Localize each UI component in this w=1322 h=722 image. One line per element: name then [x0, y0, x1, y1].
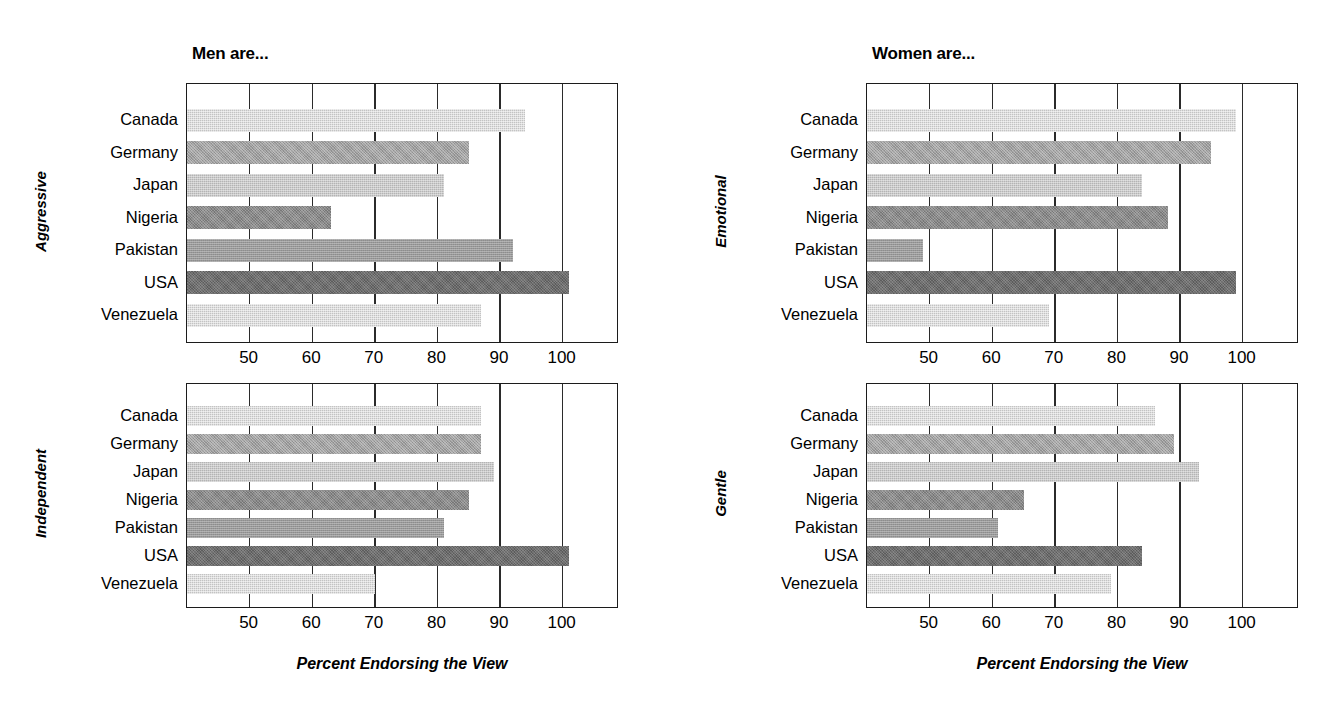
- gridline: [1179, 384, 1180, 607]
- x-axis-title: Percent Endorsing the View: [922, 655, 1242, 673]
- bar: [867, 462, 1199, 482]
- category-label: Venezuela: [688, 574, 858, 593]
- x-tick-label: 80: [1107, 613, 1126, 633]
- bar: [867, 434, 1174, 454]
- figure-root: Men are...Aggressive5060708090100CanadaG…: [0, 0, 1322, 722]
- x-tick-label: 90: [1170, 613, 1189, 633]
- bar: [867, 574, 1111, 594]
- category-label: USA: [688, 546, 858, 565]
- category-label: Japan: [688, 461, 858, 480]
- category-label: Nigeria: [688, 489, 858, 508]
- bar: [867, 490, 1024, 510]
- x-tick-label: 100: [1227, 613, 1255, 633]
- bar: [867, 518, 998, 538]
- bar: [867, 406, 1155, 426]
- category-label: Pakistan: [688, 518, 858, 537]
- plot-area: [866, 383, 1298, 608]
- x-tick-label: 60: [982, 613, 1001, 633]
- x-tick-label: 50: [919, 613, 938, 633]
- category-label: Germany: [688, 433, 858, 452]
- category-label: Canada: [688, 405, 858, 424]
- gridline: [1242, 384, 1243, 607]
- bar: [867, 546, 1142, 566]
- x-tick-label: 70: [1044, 613, 1063, 633]
- panel-women-gentle: GentlePercent Endorsing the View50607080…: [0, 0, 1322, 722]
